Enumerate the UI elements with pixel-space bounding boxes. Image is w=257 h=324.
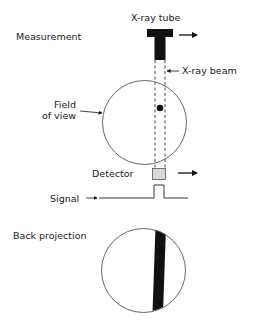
object-dot — [157, 105, 164, 112]
back-projection-band — [152, 226, 166, 316]
signal-trace — [99, 185, 188, 198]
ct-diagram — [0, 0, 257, 324]
back-projection-image — [102, 226, 186, 316]
back-projection-circle — [102, 229, 186, 313]
field-of-view-pointer-arrow — [80, 111, 102, 113]
xray-tube-icon — [147, 29, 173, 60]
field-of-view-circle — [103, 81, 187, 165]
detector-box — [153, 169, 166, 180]
